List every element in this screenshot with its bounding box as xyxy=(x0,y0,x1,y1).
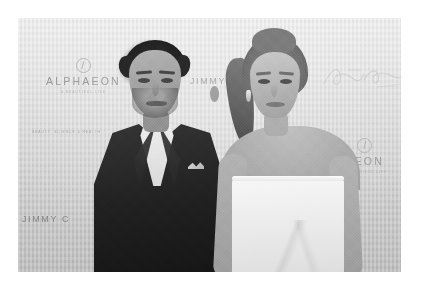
man-mouth xyxy=(146,101,167,106)
man-eye-left xyxy=(138,78,150,83)
woman-dress-neckline xyxy=(232,176,344,181)
man-eye-right xyxy=(161,78,173,83)
person-woman-in-white-dress xyxy=(214,34,374,272)
event-photograph: ALPHAEON A BEAUTIFUL LIFE AEON A BEAUTIF… xyxy=(18,18,401,272)
woman-mouth xyxy=(266,102,285,107)
woman-nose xyxy=(271,84,277,97)
woman-hair-volume xyxy=(252,28,296,54)
page-canvas: ALPHAEON A BEAUTIFUL LIFE AEON A BEAUTIF… xyxy=(0,0,428,297)
woman-white-dress xyxy=(232,176,344,272)
woman-eye-left xyxy=(258,79,270,84)
woman-eye-right xyxy=(280,79,292,84)
woman-earring xyxy=(246,90,251,102)
